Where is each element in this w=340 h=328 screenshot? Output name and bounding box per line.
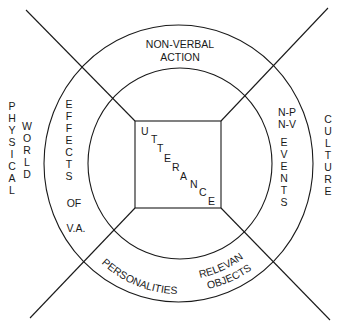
label-events: E V E N T S <box>280 136 288 208</box>
svg-text:E: E <box>324 185 331 197</box>
svg-text:T: T <box>66 158 73 170</box>
svg-text:E: E <box>208 195 215 207</box>
svg-text:N: N <box>190 178 198 190</box>
label-effects: E F F E C T S <box>65 98 73 182</box>
svg-text:V: V <box>280 148 287 160</box>
svg-text:Y: Y <box>8 124 15 136</box>
svg-text:I: I <box>11 148 14 160</box>
svg-text:R: R <box>324 173 332 185</box>
svg-text:N: N <box>280 172 288 184</box>
svg-text:F: F <box>66 122 72 134</box>
label-world: W O R L D <box>22 120 32 180</box>
svg-text:C: C <box>324 113 332 125</box>
svg-text:A: A <box>8 172 15 184</box>
label-non-verbal: NON-VERBAL <box>146 38 214 50</box>
svg-text:E: E <box>65 98 72 110</box>
label-np: N-P <box>278 106 296 118</box>
svg-text:C: C <box>65 146 73 158</box>
svg-text:D: D <box>23 168 31 180</box>
svg-text:H: H <box>8 112 16 124</box>
svg-text:E: E <box>280 160 287 172</box>
label-va: V.A. <box>67 222 86 234</box>
label-nv: N-V <box>278 118 296 130</box>
svg-text:L: L <box>24 156 30 168</box>
svg-text:S: S <box>280 196 287 208</box>
svg-text:O: O <box>23 132 31 144</box>
svg-text:W: W <box>22 120 32 132</box>
svg-text:U: U <box>324 125 332 137</box>
svg-text:T: T <box>281 184 288 196</box>
svg-text:S: S <box>65 170 72 182</box>
diagonal-line-top-right <box>221 8 328 121</box>
svg-text:L: L <box>9 184 15 196</box>
svg-text:S: S <box>8 136 15 148</box>
svg-text:T: T <box>157 142 164 154</box>
svg-text:A: A <box>180 170 187 182</box>
svg-text:C: C <box>199 186 207 198</box>
svg-text:P: P <box>8 100 15 112</box>
svg-text:U: U <box>324 161 332 173</box>
context-diagram: U T T E R A N C E NON-VERBAL ACTION E F … <box>0 0 340 328</box>
label-personalities: PERSONALITIES <box>100 256 178 296</box>
utterance-label: U T T E R A N C E <box>141 125 215 207</box>
label-physical: P H Y S I C A L <box>8 100 16 196</box>
label-of: OF <box>67 197 82 209</box>
label-culture: C U L T U R E <box>324 113 332 197</box>
svg-text:R: R <box>172 161 180 173</box>
svg-text:E: E <box>164 152 171 164</box>
svg-text:U: U <box>141 125 149 137</box>
svg-text:L: L <box>325 137 331 149</box>
svg-text:C: C <box>8 160 16 172</box>
svg-text:E: E <box>65 134 72 146</box>
label-action: ACTION <box>160 51 200 63</box>
svg-text:F: F <box>66 110 72 122</box>
svg-text:E: E <box>280 136 287 148</box>
svg-text:R: R <box>23 144 31 156</box>
diagonal-line-top-left <box>26 10 135 121</box>
svg-text:T: T <box>325 149 332 161</box>
